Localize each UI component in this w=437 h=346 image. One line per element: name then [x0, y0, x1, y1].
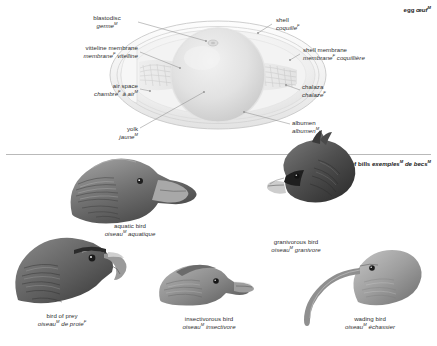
- granivorous-bird-fr: oiseauM granivore: [244, 246, 348, 254]
- egg-title-en: egg: [404, 6, 415, 13]
- label-aquatic-bird: aquatic birdoiseauM aquatique: [78, 222, 182, 237]
- illustration-page: egg œufM blastodiscgermeMvitteline membr…: [0, 0, 437, 346]
- egg-title: egg œufM: [404, 6, 431, 14]
- label-insectivorous-bird: insectivorous birdoiseauM insectivore: [152, 315, 266, 330]
- wading-bird-en: wading bird: [318, 315, 422, 323]
- bills-title: examples of bills exemplesM de becsM: [321, 160, 431, 168]
- label-shell-membrane: shell membranemembraneF coquillière: [303, 46, 423, 61]
- shell-en: shell: [276, 16, 356, 24]
- chalaza-en: chalaza: [302, 83, 382, 91]
- label-granivorous-bird: granivorous birdoiseauM granivore: [244, 238, 348, 253]
- label-shell: shellcoquilleF: [276, 16, 356, 31]
- bills-title-fr: exemplesM de becsM: [372, 160, 431, 167]
- label-air-space: air spacechambreF à airM: [38, 82, 138, 97]
- insectivorous-bird-en: insectivorous bird: [152, 315, 266, 323]
- aquatic-bird-fr: oiseauM aquatique: [78, 230, 182, 238]
- aquatic-bird-figure: [71, 159, 197, 224]
- label-blastodisc: blastodiscgermeM: [76, 14, 138, 29]
- egg-title-fr: œufM: [416, 6, 431, 13]
- label-wading-bird: wading birdoiseauM échassier: [318, 315, 422, 330]
- albumen-en: albumen: [292, 119, 372, 127]
- label-chalaza: chalazachalazeF: [302, 83, 382, 98]
- label-yolk: yolkjauneM: [68, 125, 138, 140]
- aquatic-bird-en: aquatic bird: [78, 222, 182, 230]
- shell-membrane-en: shell membrane: [303, 46, 423, 54]
- bird-of-prey-fr: oiseauM de proieF: [8, 320, 116, 328]
- label-bird-of-prey: bird of preyoiseauM de proieF: [8, 312, 116, 327]
- label-vitelline-membrane: vitteline membranemembraneF vitelline: [28, 44, 138, 59]
- label-albumen: albumenalbumenM: [292, 119, 372, 134]
- air-space-en: air space: [38, 82, 138, 90]
- wading-bird-fr: oiseauM échassier: [318, 323, 422, 331]
- albumen-fr: albumenM: [292, 127, 372, 135]
- insectivorous-bird-figure: [159, 265, 254, 306]
- yolk-en: yolk: [68, 125, 138, 133]
- bills-title-en: examples of bills: [321, 160, 370, 167]
- blastodisc-fr: germeM: [76, 22, 138, 30]
- shell-membrane-fr: membraneF coquillière: [303, 54, 423, 62]
- shell-fr: coquilleF: [276, 24, 356, 32]
- chalaza-fr: chalazeF: [302, 91, 382, 99]
- bird-of-prey-en: bird of prey: [8, 312, 116, 320]
- vitelline-membrane-fr: membraneF vitelline: [28, 52, 138, 60]
- insectivorous-bird-fr: oiseauM insectivore: [152, 323, 266, 331]
- blastodisc-en: blastodisc: [76, 14, 138, 22]
- yolk-fr: jauneM: [68, 133, 138, 141]
- vitelline-membrane-en: vitteline membrane: [28, 44, 138, 52]
- bird-of-prey-figure: [15, 238, 126, 304]
- section-divider: [6, 154, 431, 155]
- air-space-fr: chambreF à airM: [38, 90, 138, 98]
- granivorous-bird-en: granivorous bird: [244, 238, 348, 246]
